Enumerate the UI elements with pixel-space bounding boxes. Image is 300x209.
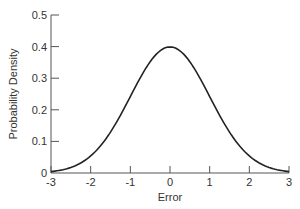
x-axis-label: Error (158, 191, 183, 203)
x-tick-label: -3 (46, 176, 56, 188)
x-tick-label: 0 (167, 176, 173, 188)
y-tick-label: 0.4 (32, 41, 47, 53)
y-tick-label: 0.5 (32, 9, 47, 21)
y-axis-label: Probability Density (7, 48, 19, 140)
chart: 00.10.20.30.40.5 -3-2-10123 Error Probab… (0, 0, 300, 209)
x-axis: -3-2-10123 (46, 166, 292, 188)
x-tick-label: -2 (86, 176, 96, 188)
y-axis: 00.10.20.30.40.5 (32, 9, 59, 179)
y-tick-label: 0.3 (32, 72, 47, 84)
x-tick-label: -1 (125, 176, 135, 188)
y-tick-label: 0.1 (32, 135, 47, 147)
y-tick-label: 0.2 (32, 104, 47, 116)
density-curve (51, 47, 289, 172)
x-tick-label: 2 (246, 176, 252, 188)
x-tick-label: 3 (286, 176, 292, 188)
x-tick-label: 1 (207, 176, 213, 188)
